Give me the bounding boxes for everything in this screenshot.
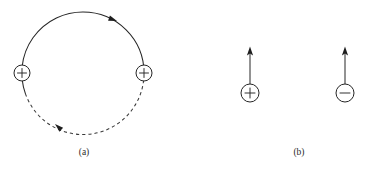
arrowhead-lower-left-arc (53, 122, 63, 132)
circular-path-solid-arc (22, 12, 144, 94)
panel-a-caption: (a) (79, 147, 90, 158)
figure-canvas: (a) (b) (0, 0, 382, 171)
circular-path-dashed-arc (25, 73, 144, 135)
panel-b: (b) (241, 47, 354, 159)
panel-a: (a) (14, 12, 152, 158)
panel-b-caption: (b) (293, 147, 304, 158)
charge-positive (241, 47, 259, 103)
physics-figure: (a) (b) (0, 0, 382, 171)
charge-negative (336, 47, 354, 103)
charge-left (14, 65, 30, 81)
charge-right (136, 65, 152, 81)
